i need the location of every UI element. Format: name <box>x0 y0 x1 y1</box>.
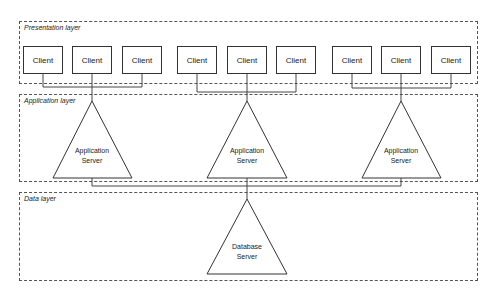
client-label: Client <box>187 56 207 65</box>
client-label: Client <box>33 56 53 65</box>
database-server-label: Database Server <box>207 242 287 262</box>
client-label: Client <box>82 56 102 65</box>
client-label: Client <box>132 56 152 65</box>
app-server-label: Application Server <box>207 146 287 166</box>
client-node: Client <box>332 46 372 74</box>
client-label: Client <box>237 56 257 65</box>
client-node: Client <box>431 46 471 74</box>
client-label: Client <box>286 56 306 65</box>
app-server-triangle-3 <box>362 101 441 178</box>
app-server-triangle-2 <box>207 101 287 178</box>
app-server-label: Application Server <box>361 146 441 166</box>
client-node: Client <box>381 46 421 74</box>
client-node: Client <box>227 46 267 74</box>
client-label: Client <box>342 56 362 65</box>
client-node: Client <box>276 46 316 74</box>
app-server-label: Application Server <box>52 146 132 166</box>
app-server-triangle-1 <box>53 101 132 178</box>
database-server-triangle <box>207 199 287 274</box>
client-node: Client <box>72 46 112 74</box>
client-node: Client <box>177 46 217 74</box>
client-node: Client <box>122 46 162 74</box>
client-label: Client <box>441 56 461 65</box>
client-node: Client <box>23 46 63 74</box>
client-label: Client <box>391 56 411 65</box>
